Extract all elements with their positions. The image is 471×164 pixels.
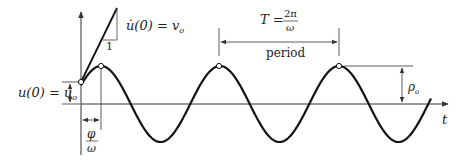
phase-numerator: φ bbox=[87, 127, 96, 141]
period-T-label: T = bbox=[260, 12, 284, 27]
period-word: period bbox=[266, 46, 306, 60]
slope-unit-label: 1 bbox=[106, 40, 113, 53]
peak-marker-3 bbox=[336, 63, 341, 68]
velocity-lhs: u̇(0) = v bbox=[126, 18, 180, 33]
period-denominator: ω bbox=[286, 22, 294, 33]
phase-denominator: ω bbox=[87, 142, 96, 155]
amplitude-symbol: ρ bbox=[407, 80, 415, 94]
peak-marker-2 bbox=[216, 63, 221, 68]
initial-point-marker bbox=[78, 79, 83, 84]
amplitude-label: ρo bbox=[407, 80, 419, 96]
amplitude-sub: o bbox=[415, 88, 419, 96]
velocity-sub: o bbox=[179, 26, 184, 35]
displacement-lhs: u(0) = u bbox=[18, 85, 72, 100]
vibration-diagram: t 1 u̇(0) = vo u(0) = uo φ ω T = 2π ω pe… bbox=[0, 0, 471, 164]
period-numerator: 2π bbox=[284, 8, 297, 19]
displacement-label: u(0) = uo bbox=[18, 85, 77, 102]
displacement-sub: o bbox=[72, 93, 77, 102]
peak-marker-1 bbox=[98, 63, 103, 68]
time-axis-label: t bbox=[442, 112, 448, 127]
velocity-label: u̇(0) = vo bbox=[126, 18, 184, 35]
